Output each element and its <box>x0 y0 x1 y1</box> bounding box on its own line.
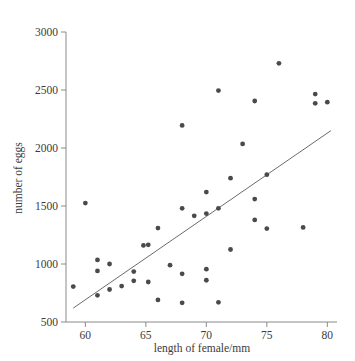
data-point <box>264 226 269 231</box>
data-point <box>301 225 306 230</box>
data-point <box>83 201 88 206</box>
data-point <box>95 293 100 298</box>
data-point <box>131 278 136 283</box>
data-point <box>95 269 100 274</box>
y-tick-label: 2000 <box>35 142 58 154</box>
data-point <box>180 206 185 211</box>
tick-labels: 500100015002000250030006065707580 <box>35 26 333 341</box>
data-point <box>313 92 318 97</box>
data-point <box>168 263 173 268</box>
data-points <box>71 61 330 305</box>
data-point <box>313 101 318 106</box>
data-point <box>228 176 233 181</box>
data-point <box>277 61 282 66</box>
data-point <box>252 218 257 223</box>
data-point <box>216 300 221 305</box>
axes <box>66 32 337 322</box>
data-point <box>204 267 209 272</box>
x-tick-label: 80 <box>322 329 334 341</box>
x-tick-label: 65 <box>140 329 152 341</box>
data-point <box>95 258 100 263</box>
data-point <box>204 190 209 195</box>
data-point <box>240 142 245 147</box>
data-point <box>180 123 185 128</box>
data-point <box>180 271 185 276</box>
tick-marks <box>61 32 327 327</box>
data-point <box>264 172 269 177</box>
data-point <box>71 284 76 289</box>
data-point <box>192 213 197 218</box>
y-tick-label: 2500 <box>35 84 58 96</box>
x-tick-label: 70 <box>201 329 213 341</box>
data-point <box>252 197 257 202</box>
data-point <box>204 278 209 283</box>
data-point <box>325 100 330 105</box>
data-point <box>180 300 185 305</box>
y-tick-label: 500 <box>41 316 59 328</box>
scatter-plot-figure: 500100015002000250030006065707580 length… <box>0 0 355 361</box>
data-point <box>252 99 257 104</box>
y-tick-label: 1500 <box>35 200 58 212</box>
data-point <box>146 242 151 247</box>
data-point <box>156 226 161 231</box>
y-tick-label: 3000 <box>35 26 58 38</box>
data-point <box>216 88 221 93</box>
plot-canvas: 500100015002000250030006065707580 length… <box>0 0 355 361</box>
x-tick-label: 75 <box>261 329 273 341</box>
x-axis-title: length of female/mm <box>154 342 250 355</box>
data-point <box>204 211 209 216</box>
data-point <box>216 206 221 211</box>
regression-line <box>73 131 331 308</box>
data-point <box>228 247 233 252</box>
data-point <box>119 284 124 289</box>
y-tick-label: 1000 <box>35 258 58 270</box>
data-point <box>146 280 151 285</box>
data-point <box>107 287 112 292</box>
x-tick-label: 60 <box>80 329 92 341</box>
data-point <box>131 269 136 274</box>
y-axis-title: number of eggs <box>12 142 25 214</box>
data-point <box>107 262 112 267</box>
data-point <box>156 298 161 303</box>
data-point <box>141 243 146 248</box>
